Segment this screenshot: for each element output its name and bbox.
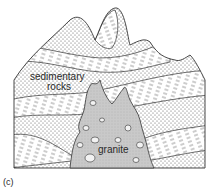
- geologic-cross-section: [0, 0, 218, 193]
- label-rocks: rocks: [47, 82, 71, 92]
- panel-label: (c): [3, 177, 14, 187]
- label-granite: granite: [98, 145, 129, 155]
